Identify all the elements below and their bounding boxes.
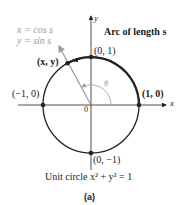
radius-line: [59, 46, 91, 105]
point-left-label: (−1, 0): [12, 89, 39, 99]
theta-label: θ: [104, 80, 108, 88]
subcaption: (a): [84, 193, 95, 202]
point-right-label: (1, 0): [142, 89, 164, 99]
point-xy-label: (x, y): [37, 57, 59, 67]
point-xy: [65, 61, 70, 66]
point-right: [137, 103, 142, 108]
point-left: [41, 103, 46, 108]
param-y-label: y = sin s: [17, 36, 51, 46]
caption: Unit circle x² + y² = 1: [45, 172, 132, 182]
point-bottom-label: (0, −1): [93, 155, 120, 165]
y-axis-label: y: [94, 14, 98, 23]
origin-label: 0: [84, 106, 88, 114]
point-top: [89, 55, 94, 60]
point-top-label: (0, 1): [94, 46, 116, 56]
x-axis-label: x: [170, 99, 174, 108]
param-x-label: x = cos s: [17, 25, 53, 35]
arc-label: Arc of length s: [104, 27, 166, 37]
